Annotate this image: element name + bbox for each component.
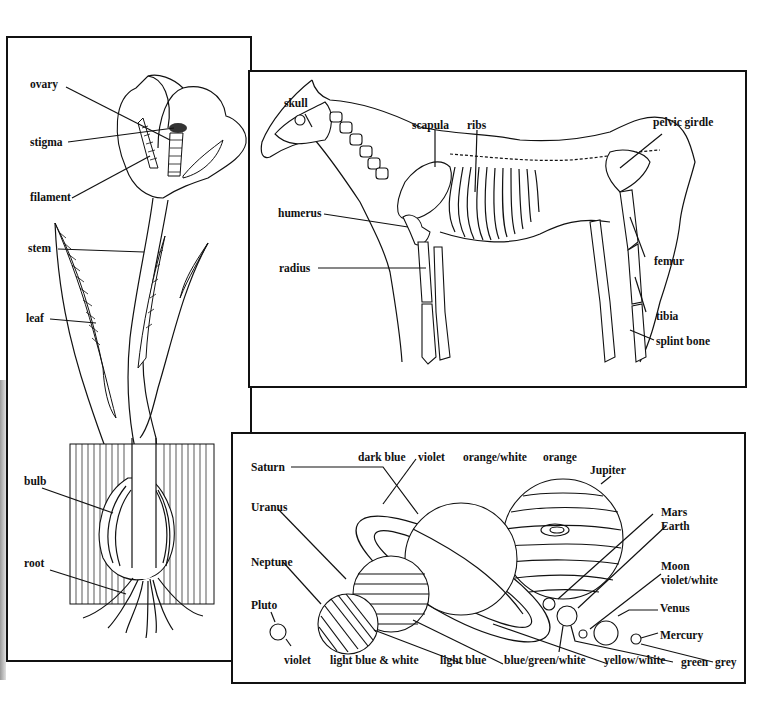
planets-panel: Saturn Jupiter Uranus Neptune Pluto Mars… xyxy=(231,432,746,684)
label-earth: Earth xyxy=(661,520,690,532)
label-jupiter: Jupiter xyxy=(590,464,626,477)
venus-shape xyxy=(594,621,618,645)
label-humerus: humerus xyxy=(278,207,322,219)
label-tibia: tibia xyxy=(656,310,679,322)
mars-shape xyxy=(543,598,555,610)
label-dark-blue: dark blue xyxy=(358,451,406,463)
label-femur: femur xyxy=(654,255,684,267)
label-orange: orange xyxy=(543,451,577,464)
label-filament: filament xyxy=(30,191,71,203)
horse-panel: skull scapula ribs pelvic girdle humerus… xyxy=(248,70,747,388)
femur-shape xyxy=(620,190,638,250)
jupiter-shape xyxy=(503,479,623,599)
label-light-blue: light blue xyxy=(440,654,486,667)
scapula-shape xyxy=(397,162,451,220)
label-saturn: Saturn xyxy=(251,461,285,473)
label-ribs: ribs xyxy=(467,119,487,131)
label-uranus: Uranus xyxy=(251,501,288,513)
label-orange-white: orange/white xyxy=(463,451,527,464)
label-violet-top: violet xyxy=(418,451,445,463)
label-radius: radius xyxy=(279,262,311,274)
label-light-blue-white: light blue & white xyxy=(330,654,419,667)
label-root: root xyxy=(24,557,44,569)
label-splint-bone: splint bone xyxy=(656,335,710,348)
pelvic-girdle-shape xyxy=(606,150,650,192)
label-leaf: leaf xyxy=(26,312,44,324)
label-stigma: stigma xyxy=(30,136,63,149)
label-grey: grey xyxy=(715,656,737,669)
tibia-shape xyxy=(628,244,642,304)
label-blue-green-white: blue/green/white xyxy=(504,654,586,667)
horse-skeleton-illustration: skull scapula ribs pelvic girdle humerus… xyxy=(250,72,749,390)
label-mercury: Mercury xyxy=(660,629,703,642)
label-violet-white: violet/white xyxy=(661,574,718,586)
planets-illustration: Saturn Jupiter Uranus Neptune Pluto Mars… xyxy=(233,434,748,686)
label-green: green xyxy=(681,656,709,669)
humerus-shape xyxy=(403,215,430,245)
label-stem: stem xyxy=(28,242,51,254)
neptune-shape xyxy=(318,594,378,654)
ribs-shape xyxy=(449,167,539,240)
splint-bone-shape xyxy=(632,304,646,362)
label-scapula: scapula xyxy=(412,119,449,132)
label-venus: Venus xyxy=(660,602,690,614)
radius-shape xyxy=(418,242,432,302)
label-skull: skull xyxy=(284,97,308,109)
label-bulb: bulb xyxy=(24,475,46,487)
plant-panel: ovary stigma filament stem leaf bulb roo… xyxy=(6,36,252,662)
plant-illustration: ovary stigma filament stem leaf bulb roo… xyxy=(8,38,254,664)
label-ovary: ovary xyxy=(30,78,58,91)
label-mars: Mars xyxy=(661,506,688,518)
moon-shape xyxy=(579,630,587,638)
pluto-shape xyxy=(270,624,286,640)
label-pelvic-girdle: pelvic girdle xyxy=(653,116,713,129)
label-yellow-white: yellow/white xyxy=(604,654,665,667)
ovary-shape xyxy=(168,133,183,176)
label-violet-bottom: violet xyxy=(284,654,311,666)
label-neptune: Neptune xyxy=(251,556,293,569)
earth-shape xyxy=(557,606,577,626)
mercury-shape xyxy=(631,634,641,644)
label-pluto: Pluto xyxy=(251,599,277,611)
label-moon: Moon xyxy=(661,560,690,572)
